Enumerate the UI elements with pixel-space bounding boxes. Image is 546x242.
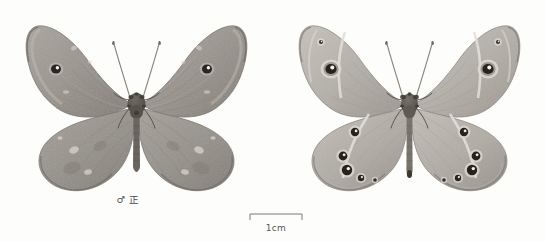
ventral-right-forewing: [414, 26, 520, 117]
scale-bar-line: [249, 213, 303, 223]
ocellus-ventral-forewing-right-large: [478, 59, 499, 78]
specimen-figure-dorsal: ♂ 正: [0, 0, 273, 242]
dorsal-left-hindwing: [39, 108, 134, 191]
specimen-plate: ♂ 正: [0, 0, 546, 242]
dorsal-left-forewing: [26, 26, 132, 117]
ocellus-forewing-left: [49, 62, 64, 75]
dorsal-right-hindwing: [139, 108, 234, 191]
ocellus-ventral-forewing-left-small: [317, 38, 325, 46]
caption-dorsal: ♂ 正: [68, 192, 188, 206]
specimen-figure-ventral: ♂ 反: [273, 0, 546, 242]
scale-bar-label: 1cm: [249, 223, 303, 233]
dorsal-right-forewing: [141, 26, 247, 117]
ocellus-forewing-right: [200, 62, 215, 75]
ventral-right-hindwing: [412, 108, 507, 191]
ventral-left-hindwing: [312, 108, 407, 191]
ventral-left-forewing: [299, 26, 405, 117]
scale-bar: 1cm: [249, 213, 303, 239]
butterfly-ventral-image: [273, 0, 546, 242]
ocellus-ventral-forewing-left-large: [321, 59, 342, 78]
ocellus-ventral-forewing-right-small: [494, 38, 502, 46]
